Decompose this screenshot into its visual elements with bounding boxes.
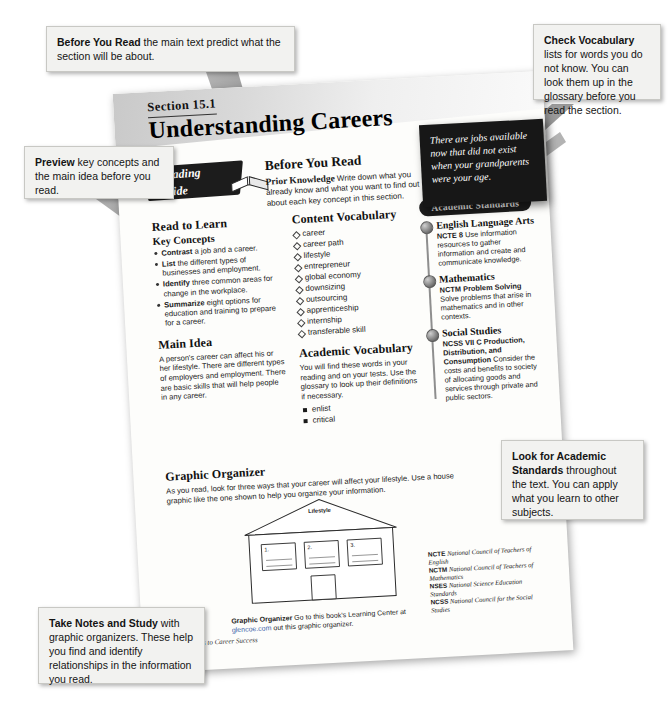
academic-standards-rail: English Language Arts NCTE 8 Use informa…	[420, 214, 546, 403]
standard-text: Solve problems that arise in mathematics…	[440, 290, 532, 322]
callout-lead: Take Notes and Study	[49, 617, 158, 629]
callout-lead: Preview	[35, 156, 75, 168]
svg-text:3.: 3.	[350, 542, 355, 548]
standard-bullet-icon	[420, 221, 434, 235]
callout-take-notes: Take Notes and Study with graphic organi…	[38, 607, 205, 684]
svg-text:2.: 2.	[307, 544, 312, 550]
go-footer-text-2: Learning Center at	[348, 608, 406, 618]
callout-before-you-read: Before You Read the main text predict wh…	[46, 26, 295, 72]
abbreviation-key: NCTE National Council of Teachers of Eng…	[424, 542, 544, 618]
go-footer-link[interactable]: glencoe.com	[232, 624, 272, 633]
main-idea-body: A person's career can affect his or her …	[159, 348, 287, 403]
callout-check-vocabulary: Check Vocabulary lists for words you do …	[533, 24, 661, 100]
before-you-read-block: Before You Read Prior Knowledge Write do…	[264, 149, 437, 209]
open-book-icon	[229, 172, 270, 198]
callout-academic-standards: Look for Academic Standards throughout t…	[501, 440, 644, 520]
content-vocabulary-list: career career path lifestyle entrepreneu…	[292, 222, 416, 338]
graphic-organizer-footer: Graphic Organizer Go to this book's Lear…	[231, 607, 407, 634]
key-concepts-list: Contrast a job and a career. List the di…	[153, 242, 283, 328]
academic-vocabulary-body: You will find these words in your readin…	[299, 357, 419, 402]
graphic-organizer-block: Graphic Organizer As you read, look for …	[165, 452, 486, 505]
list-item: Summarize eight options for education an…	[156, 294, 283, 329]
standard-bullet-icon	[423, 275, 437, 289]
academic-vocabulary-list: enlist critical	[302, 398, 421, 426]
standard-item: Mathematics NCTM Problem Solving Solve p…	[439, 268, 541, 321]
standard-bullet-icon	[426, 329, 440, 343]
quote-note: There are jobs available now that did no…	[419, 119, 547, 207]
column-vocabulary: Content Vocabulary career career path li…	[291, 206, 420, 426]
column-read-to-learn: Read to Learn Key Concepts Contrast a jo…	[152, 213, 288, 402]
callout-lead: Check Vocabulary	[544, 34, 634, 46]
go-footer-text-3: out this graphic organizer.	[273, 620, 353, 631]
before-you-read-body: Prior Knowledge Write down what you alre…	[265, 168, 436, 209]
callout-preview: Preview key concepts and the main idea b…	[24, 146, 174, 199]
callout-lead: Before You Read	[57, 36, 141, 48]
svg-text:1.: 1.	[264, 546, 269, 552]
go-footer-text-1: Go to this book's	[294, 611, 346, 621]
column-academic-standards: Academic Standards English Language Arts…	[419, 193, 546, 409]
standard-item: Social Studies NCSS VII C Production, Di…	[442, 322, 546, 402]
callout-text: lists for words you do not know. You can…	[544, 48, 643, 116]
standard-item: English Language Arts NCTE 8 Use informa…	[436, 214, 538, 267]
quote-note-text: There are jobs available now that did no…	[429, 128, 536, 185]
